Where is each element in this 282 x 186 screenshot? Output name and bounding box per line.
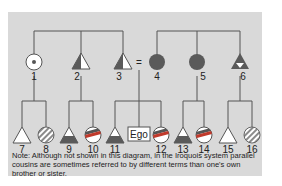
person-1: 1 [26, 54, 42, 82]
svg-text:1: 1 [31, 71, 37, 82]
svg-text:2: 2 [74, 71, 80, 82]
svg-text:4: 4 [154, 71, 160, 82]
diagram-note: Note: Although not shown in this diagram… [12, 151, 262, 178]
person-4: 4 [149, 54, 165, 82]
svg-text:3: 3 [116, 71, 122, 82]
svg-text:6: 6 [240, 71, 246, 82]
marriage-symbol: = [136, 57, 142, 68]
svg-text:Ego: Ego [130, 129, 148, 140]
svg-text:5: 5 [200, 71, 206, 82]
ego-box: Ego [128, 127, 150, 141]
person-3: 3 [114, 53, 132, 82]
person-6: 6 [231, 53, 249, 82]
person-5: 5 [189, 54, 206, 82]
connector-lines [22, 31, 252, 127]
